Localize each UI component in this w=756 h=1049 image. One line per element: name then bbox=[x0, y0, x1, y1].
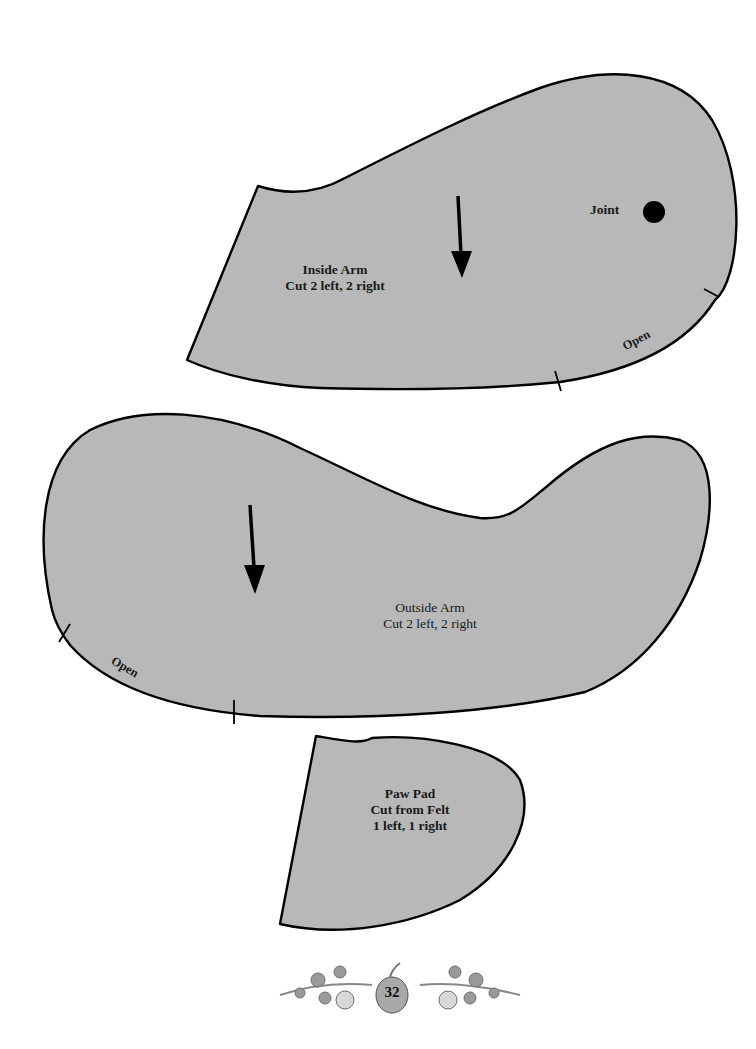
inside-arm-instruction: Cut 2 left, 2 right bbox=[270, 278, 400, 294]
inside-arm-piece bbox=[187, 74, 736, 391]
paw-pad-instruction-1: Cut from Felt bbox=[350, 802, 470, 818]
outside-arm-outline bbox=[44, 414, 710, 717]
outside-arm-piece bbox=[44, 414, 710, 724]
inside-arm-label: Inside Arm Cut 2 left, 2 right bbox=[270, 262, 400, 294]
outside-arm-label: Outside Arm Cut 2 left, 2 right bbox=[365, 600, 495, 632]
paw-pad-label: Paw Pad Cut from Felt 1 left, 1 right bbox=[350, 786, 470, 834]
outside-arm-title: Outside Arm bbox=[365, 600, 495, 616]
paw-pad-title: Paw Pad bbox=[350, 786, 470, 802]
pattern-page: Inside Arm Cut 2 left, 2 right Joint Ope… bbox=[0, 0, 756, 1049]
inside-arm-title: Inside Arm bbox=[270, 262, 400, 278]
page-number: 32 bbox=[377, 984, 407, 1001]
joint-label: Joint bbox=[590, 202, 634, 218]
paw-pad-instruction-2: 1 left, 1 right bbox=[350, 818, 470, 834]
inside-arm-outline bbox=[187, 74, 736, 389]
outside-arm-instruction: Cut 2 left, 2 right bbox=[365, 616, 495, 632]
joint-marker-icon bbox=[643, 201, 665, 223]
pattern-pieces-canvas bbox=[0, 0, 756, 1049]
